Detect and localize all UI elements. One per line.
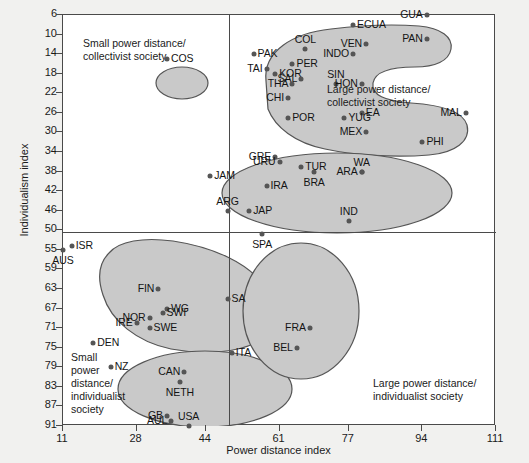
y-tick-mark — [56, 131, 62, 132]
data-point-label: CHI — [266, 91, 284, 103]
data-point-label: URU — [253, 155, 275, 167]
x-tick-label: 61 — [264, 432, 294, 444]
y-tick-label: 50 — [31, 222, 57, 234]
data-point — [260, 232, 265, 237]
data-point-label: HON — [335, 77, 358, 89]
y-tick-label: 75 — [31, 340, 57, 352]
data-point-label: IND — [340, 205, 358, 217]
data-point-label: IRA — [271, 179, 288, 191]
x-tick-label: 28 — [121, 432, 151, 444]
y-tick-label: 63 — [31, 281, 57, 293]
data-point — [359, 81, 364, 86]
y-tick-label: 42 — [31, 183, 57, 195]
data-point — [299, 76, 304, 81]
data-point-label: POR — [292, 111, 314, 123]
data-point — [351, 22, 356, 27]
y-tick-mark — [56, 405, 62, 406]
data-point-label: IRE — [115, 316, 132, 328]
data-point — [286, 115, 291, 120]
data-point — [91, 340, 96, 345]
y-tick-label: 46 — [31, 203, 57, 215]
y-tick-mark — [56, 171, 62, 172]
data-point-label: SA — [232, 292, 246, 304]
y-tick-mark — [56, 210, 62, 211]
data-point — [359, 169, 364, 174]
data-point-label: ITA — [236, 346, 251, 358]
data-point — [134, 321, 139, 326]
y-tick-mark — [56, 151, 62, 152]
data-point — [164, 57, 169, 62]
data-point — [247, 208, 252, 213]
x-tick-label: 94 — [406, 432, 436, 444]
data-point — [463, 110, 468, 115]
y-tick-mark — [56, 288, 62, 289]
data-point-label: GUA — [400, 8, 422, 20]
data-point — [69, 243, 74, 248]
y-tick-mark — [56, 92, 62, 93]
x-tick-mark — [205, 425, 206, 431]
data-point-label: DEN — [97, 336, 119, 348]
y-tick-label: 6 — [31, 7, 57, 19]
x-tick-label: 111 — [480, 432, 510, 444]
y-tick-label: 67 — [31, 301, 57, 313]
data-point — [364, 42, 369, 47]
data-point — [186, 424, 191, 429]
y-tick-label: 91 — [31, 418, 57, 430]
data-point — [346, 218, 351, 223]
y-tick-label: 79 — [31, 359, 57, 371]
data-point — [342, 115, 347, 120]
data-point-label: PHI — [426, 135, 443, 147]
cluster-outline-individualist-south — [118, 351, 292, 426]
y-tick-mark — [56, 229, 62, 230]
x-tick-mark — [279, 425, 280, 431]
data-point — [156, 287, 161, 292]
data-point-label: AUL — [147, 414, 167, 426]
y-tick-label: 71 — [31, 320, 57, 332]
x-tick-label: 44 — [190, 432, 220, 444]
data-point-label: SPA — [252, 238, 272, 250]
data-point — [277, 159, 282, 164]
y-tick-label: 38 — [31, 164, 57, 176]
y-tick-label: 14 — [31, 46, 57, 58]
y-tick-mark — [56, 347, 62, 348]
data-point-label: ARA — [336, 165, 357, 177]
y-tick-mark — [56, 366, 62, 367]
data-point — [303, 47, 308, 52]
data-point-label: USA — [178, 410, 199, 422]
data-point — [108, 365, 113, 370]
x-tick-mark — [495, 425, 496, 431]
data-point-label: SWI — [167, 306, 187, 318]
y-tick-label: 26 — [31, 105, 57, 117]
data-point — [307, 326, 312, 331]
data-point-label: COS — [171, 52, 193, 64]
data-point-label: BRA — [303, 176, 324, 188]
data-point — [420, 140, 425, 145]
y-tick-mark — [56, 34, 62, 35]
y-tick-label: 59 — [31, 261, 57, 273]
y-tick-label: 55 — [31, 242, 57, 254]
quadrant-note-bottom-right: Large power distance/ individualist soci… — [373, 377, 476, 403]
data-point — [225, 208, 230, 213]
cluster-outline-individualist-large — [243, 243, 359, 379]
y-tick-label: 22 — [31, 85, 57, 97]
data-point — [169, 419, 174, 424]
data-point-label: COL — [295, 33, 316, 45]
x-tick-mark — [421, 425, 422, 431]
data-point-label: YUG — [348, 111, 370, 123]
y-tick-label: 83 — [31, 379, 57, 391]
data-point-label: ARG — [216, 195, 238, 207]
cluster-outline-individualist-north — [100, 240, 275, 353]
data-point-label: ISR — [76, 239, 93, 251]
y-tick-mark — [56, 249, 62, 250]
y-tick-mark — [56, 327, 62, 328]
data-point-label: BEL — [273, 341, 293, 353]
data-point — [286, 96, 291, 101]
data-point — [208, 174, 213, 179]
y-tick-label: 87 — [31, 398, 57, 410]
data-point — [290, 81, 295, 86]
y-tick-mark — [56, 190, 62, 191]
data-point — [351, 52, 356, 57]
data-point — [294, 345, 299, 350]
data-point — [182, 370, 187, 375]
data-point-label: MAL — [440, 106, 461, 118]
